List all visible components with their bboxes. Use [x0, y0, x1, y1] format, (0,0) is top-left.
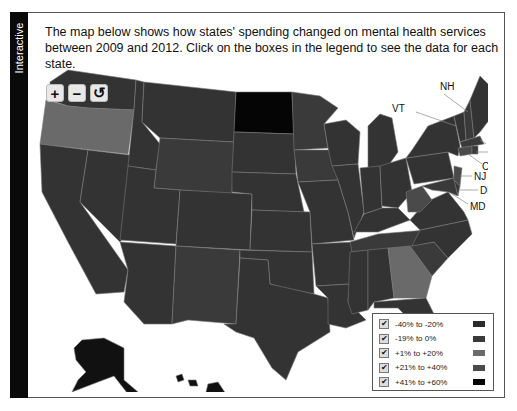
legend-checkbox[interactable]: ✔: [379, 363, 389, 373]
legend-item[interactable]: ✔ +1% to +20%: [379, 346, 493, 361]
reset-button[interactable]: ↺: [90, 84, 108, 102]
state-ak: [72, 338, 138, 392]
zoom-out-button[interactable]: −: [68, 84, 86, 102]
map-zoom-controls: + − ↺: [46, 84, 108, 102]
legend-item[interactable]: ✔ -19% to 0%: [379, 332, 493, 347]
state-ks: [250, 210, 312, 252]
state-ms: [348, 250, 368, 314]
state-nd: [234, 92, 294, 134]
legend-item[interactable]: ✔ -40% to -20%: [379, 317, 493, 332]
legend-label: -40% to -20%: [395, 320, 473, 329]
state-co: [176, 190, 252, 250]
legend-item[interactable]: ✔ +41% to +60%: [379, 375, 493, 390]
interactive-sidebar: Interactive: [10, 12, 28, 398]
interactive-label: Interactive: [13, 17, 25, 79]
legend-label: +1% to +20%: [395, 349, 473, 358]
legend-checkbox[interactable]: ✔: [379, 319, 389, 329]
legend-label: +21% to +40%: [395, 363, 473, 372]
state-ny: [406, 116, 460, 158]
state-az: [120, 242, 176, 324]
state-mt: [142, 82, 236, 142]
legend-checkbox[interactable]: ✔: [379, 377, 389, 387]
legend-swatch[interactable]: [473, 336, 485, 342]
state-sd: [232, 132, 296, 174]
callout-md: MD: [470, 201, 486, 212]
legend-swatch[interactable]: [473, 350, 485, 356]
legend-swatch[interactable]: [473, 321, 485, 327]
legend-label: -19% to 0%: [395, 334, 473, 343]
legend-item[interactable]: ✔ +21% to +40%: [379, 361, 493, 376]
callout-de: DE: [480, 185, 488, 196]
state-in: [360, 166, 382, 214]
legend: ✔ -40% to -20% ✔ -19% to 0% ✔ +1% to +20…: [372, 313, 494, 391]
state-ct: [458, 146, 472, 156]
state-hi: [176, 374, 226, 392]
state-ar: [312, 242, 354, 286]
state-mi: [368, 114, 398, 168]
state-wy: [154, 138, 234, 194]
legend-swatch[interactable]: [473, 379, 485, 385]
callout-nh: NH: [440, 81, 454, 92]
legend-label: +41% to +60%: [395, 378, 473, 387]
state-nm: [172, 246, 240, 324]
state-ri: [472, 146, 478, 154]
legend-checkbox[interactable]: ✔: [379, 334, 389, 344]
callout-vt: VT: [392, 103, 405, 114]
callout-nj: NJ: [474, 171, 486, 182]
zoom-in-button[interactable]: +: [46, 84, 64, 102]
legend-checkbox[interactable]: ✔: [379, 348, 389, 358]
legend-swatch[interactable]: [473, 365, 485, 371]
